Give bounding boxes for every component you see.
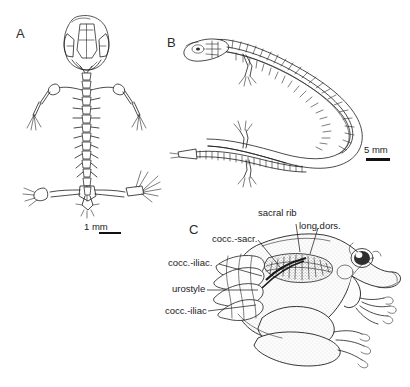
- coccygeo-iliacus-bands: [214, 254, 265, 321]
- label-cocc-sacr: cocc.-sacr.: [212, 234, 257, 244]
- panel-c-drawing: [0, 0, 410, 387]
- label-urostyle: urostyle: [172, 284, 205, 294]
- frog-lateral-c: [214, 234, 401, 368]
- label-long-dors: long.dors.: [299, 221, 341, 231]
- label-sacral-rib: sacral rib: [258, 208, 297, 218]
- label-cocc-iliac-lower: cocc.-iliac: [165, 306, 207, 316]
- figure-container: A: [0, 0, 410, 387]
- label-cocc-iliac-upper: cocc.-iliac.: [168, 258, 212, 268]
